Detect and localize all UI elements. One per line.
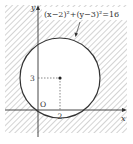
equation-label: (x−2)²+(y−3)²=16 [44, 10, 119, 19]
origin-label: O [40, 100, 46, 109]
center-point [58, 76, 61, 79]
y-tick-3: 3 [30, 74, 35, 83]
x-axis-label: x [121, 114, 126, 123]
circle-diagram: (x−2)²+(y−3)²=16 y x O 3 2 [0, 0, 133, 144]
y-axis-label: y [30, 3, 36, 12]
shaded-region [5, 5, 127, 133]
x-tick-2: 2 [58, 112, 63, 121]
